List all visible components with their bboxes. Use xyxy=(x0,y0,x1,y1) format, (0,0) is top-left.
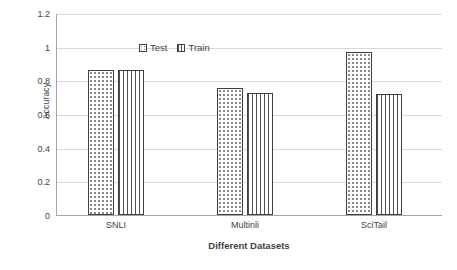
x-tick-label-multinli: Multinli xyxy=(231,220,259,230)
x-axis-tick-labels: SNLI Multinli SciTail xyxy=(56,220,442,234)
y-tick-label: 0.8 xyxy=(4,76,50,86)
gridline xyxy=(56,14,442,15)
x-tick-label-scitail: SciTail xyxy=(361,220,387,230)
y-tick-label: 1.2 xyxy=(4,9,50,19)
legend: Test Train xyxy=(139,42,210,53)
y-tick-label: 0 xyxy=(4,211,50,221)
x-axis-line xyxy=(56,215,442,216)
bar-test-scitail xyxy=(346,52,372,215)
y-tick-label: 1 xyxy=(4,43,50,53)
plot-area: Test Train xyxy=(56,14,442,216)
y-tick-label: 0.4 xyxy=(4,144,50,154)
y-tick-label: 0.2 xyxy=(4,177,50,187)
y-tick-label: 0.6 xyxy=(4,110,50,120)
legend-swatch-icon xyxy=(177,44,185,52)
y-axis-tick-labels: 0 0.2 0.4 0.6 0.8 1 1.2 xyxy=(0,14,50,216)
x-axis-title: Different Datasets xyxy=(56,240,442,251)
bar-train-snli xyxy=(118,70,144,215)
y-axis-line xyxy=(56,14,57,216)
bar-test-multinli xyxy=(217,88,243,215)
bar-test-snli xyxy=(88,70,114,215)
gridline xyxy=(56,48,442,49)
legend-label-test: Test xyxy=(150,42,167,53)
x-tick-label-snli: SNLI xyxy=(106,220,126,230)
legend-swatch-icon xyxy=(139,44,147,52)
bar-chart: Accuracy 0 0.2 0.4 0.6 0.8 1 1.2 Test xyxy=(0,0,457,270)
legend-label-train: Train xyxy=(188,42,209,53)
legend-entry-train: Train xyxy=(177,42,209,53)
legend-entry-test: Test xyxy=(139,42,167,53)
bar-train-scitail xyxy=(376,94,402,215)
bar-train-multinli xyxy=(247,93,273,215)
